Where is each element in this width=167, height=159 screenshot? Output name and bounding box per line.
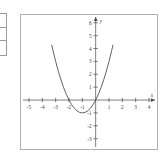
y-tick-label: 5 xyxy=(89,33,92,39)
x-tick-label: -5 xyxy=(27,104,32,110)
table-row xyxy=(0,14,6,28)
x-tick-label: -2 xyxy=(67,104,72,110)
y-tick-label: 4 xyxy=(89,46,92,52)
y-tick-label: 3 xyxy=(89,58,92,64)
y-tick-label: 2 xyxy=(89,71,92,77)
x-tick-label: -4 xyxy=(40,104,45,110)
y-axis-arrow xyxy=(94,17,98,21)
x-tick-label: 3 xyxy=(134,104,137,110)
x-tick-label: -1 xyxy=(80,104,85,110)
x-tick-label: 4 xyxy=(148,104,151,110)
cut-off-table-fragment xyxy=(0,13,7,56)
x-tick-label: -3 xyxy=(54,104,59,110)
x-tick-label: 1 xyxy=(108,104,111,110)
x-axis-label: x xyxy=(150,92,154,98)
y-tick-label: -3 xyxy=(87,136,92,142)
y-tick-label: -2 xyxy=(87,123,92,129)
table-row xyxy=(0,28,6,42)
x-axis-arrow xyxy=(151,98,155,102)
parabola-curve xyxy=(52,45,113,113)
table-row xyxy=(0,41,6,55)
y-axis-label: y xyxy=(99,18,103,24)
coordinate-plane-chart: -5-4-3-2-11234-3-2-1123456xy xyxy=(21,15,157,149)
y-tick-label: 1 xyxy=(89,84,92,90)
graph-frame: -5-4-3-2-11234-3-2-1123456xy xyxy=(20,14,158,150)
x-tick-label: 2 xyxy=(121,104,124,110)
y-tick-label: 6 xyxy=(89,20,92,26)
